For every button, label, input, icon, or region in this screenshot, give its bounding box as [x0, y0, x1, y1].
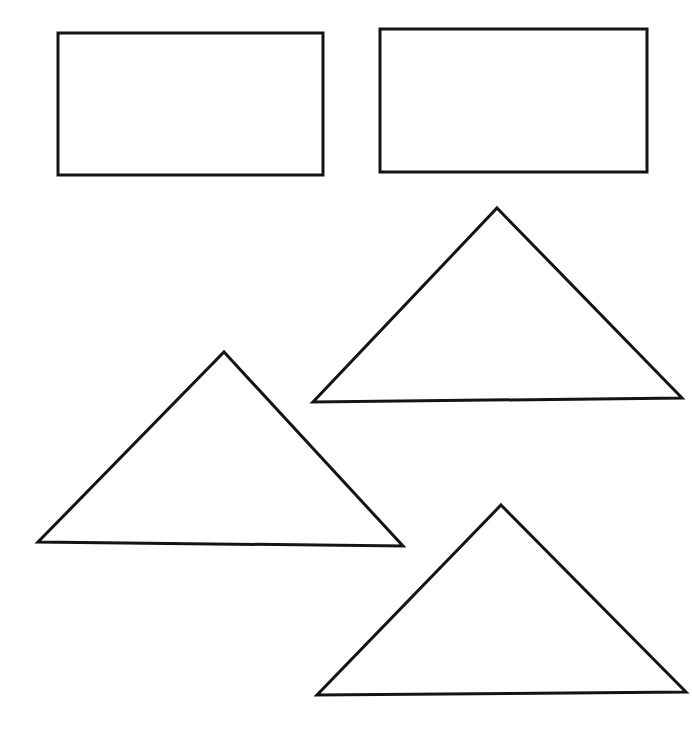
shape-diagram-canvas — [0, 0, 692, 743]
rectangle-top-left — [58, 33, 323, 175]
rectangle-top-right — [380, 29, 647, 172]
